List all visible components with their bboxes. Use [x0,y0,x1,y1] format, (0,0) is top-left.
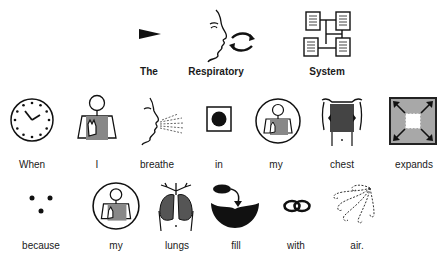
breathe-face-icon [138,96,186,146]
my-person-circle-icon [91,181,141,231]
word-system: System [309,66,345,77]
system-network-icon [302,10,354,60]
self-person-icon [74,94,120,146]
expand-arrows-icon [389,97,437,145]
word-the: The [140,66,158,77]
clock-icon [9,97,55,143]
fill-bowl-icon [210,183,260,229]
word-i: I [96,159,99,170]
word-fill: fill [231,240,240,251]
word-lungs: lungs [165,240,189,251]
word-my-2: my [109,240,122,251]
word-respiratory: Respiratory [188,66,244,77]
word-breathe: breathe [140,159,174,170]
word-expands: expands [395,159,433,170]
lungs-icon [155,181,197,233]
because-dots-icon [28,193,54,215]
breathing-face-icon [200,8,260,63]
word-my-1: my [269,159,282,170]
word-when: When [19,159,45,170]
word-because: because [22,240,60,251]
my-person-circle-icon [254,97,302,145]
word-with: with [287,240,305,251]
pointer-triangle-icon [139,28,163,40]
word-chest: chest [330,159,354,170]
chest-torso-icon [318,96,366,148]
word-in: in [215,159,223,170]
with-rings-icon [282,199,312,213]
air-swirl-icon [330,184,378,224]
word-air: air. [350,240,363,251]
in-box-icon [206,106,232,132]
